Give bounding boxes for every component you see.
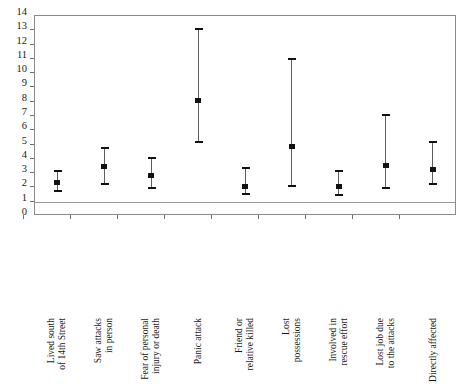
data-point-marker[interactable] xyxy=(430,167,436,172)
error-bar-cap-upper xyxy=(288,58,296,60)
x-axis-label-line: Lost xyxy=(281,318,292,386)
x-axis-label-line: Saw attacks xyxy=(93,318,104,386)
error-bar-cap-upper xyxy=(148,157,156,159)
x-axis-tick-mark xyxy=(305,215,306,219)
x-axis-label-line: Fear of personal xyxy=(140,318,151,386)
x-axis-category-label: Directly affected xyxy=(427,318,438,386)
error-bar-cap-lower xyxy=(195,141,203,143)
data-point-marker[interactable] xyxy=(242,184,248,189)
x-axis-category-label: Lost job dueto the attacks xyxy=(375,318,397,386)
x-axis-tick-mark xyxy=(70,215,71,219)
y-axis-tick-label: 6 xyxy=(22,121,27,131)
y-axis-tick-label: 12 xyxy=(17,36,28,46)
x-axis-tick-mark xyxy=(211,215,212,219)
error-bar-line xyxy=(198,29,199,142)
error-bar-line xyxy=(245,168,246,194)
x-axis-tick-mark xyxy=(164,215,165,219)
error-bar-cap-lower xyxy=(54,190,62,192)
x-axis-category-label: Panic attack xyxy=(193,318,204,386)
x-axis-label-line: to the attacks xyxy=(386,318,397,386)
error-bar-cap-upper xyxy=(382,114,390,116)
y-axis-tick-label: 8 xyxy=(22,93,27,103)
x-axis-labels: Lived southof 14th StreetSaw attacksin p… xyxy=(34,218,456,321)
y-axis: 01234567891011121314 xyxy=(0,15,34,215)
x-axis-category-label: Friend orrelative killed xyxy=(234,318,256,386)
x-axis-label-line: possessions xyxy=(292,318,303,386)
x-axis-category-label: Fear of personalinjury or death xyxy=(140,318,162,386)
error-bar-cap-lower xyxy=(101,183,109,185)
y-axis-tick-label: 14 xyxy=(17,7,28,17)
error-bar-cap-lower xyxy=(429,183,437,185)
error-bar-cap-lower xyxy=(148,187,156,189)
error-bar-cap-upper xyxy=(101,147,109,149)
x-axis-category-label: Involved inrescue effort xyxy=(328,318,350,386)
error-bar-cap-lower xyxy=(288,185,296,187)
data-point-marker[interactable] xyxy=(148,173,154,178)
x-axis-tick-mark xyxy=(258,215,259,219)
error-bar-cap-upper xyxy=(195,28,203,30)
error-bar-line xyxy=(432,142,433,183)
x-axis-label-line: injury or death xyxy=(151,318,162,386)
x-axis-label-line: Directly affected xyxy=(427,318,438,386)
x-axis-label-line: Panic attack xyxy=(193,318,204,386)
x-axis-category-label: Lived southof 14th Street xyxy=(46,318,68,386)
error-bar-cap-upper xyxy=(429,141,437,143)
x-axis-label-line: in person xyxy=(104,318,115,386)
x-axis-label-line: Lost job due xyxy=(375,318,386,386)
error-bar-line xyxy=(338,171,339,195)
data-point-marker[interactable] xyxy=(195,98,201,103)
y-axis-tick-label: 7 xyxy=(22,107,27,117)
y-axis-tick-label: 13 xyxy=(17,21,28,31)
data-point-marker[interactable] xyxy=(101,164,107,169)
error-bar-cap-upper xyxy=(242,167,250,169)
x-axis-category-label: Lostpossessions xyxy=(281,318,303,386)
y-axis-tick-label: 2 xyxy=(22,178,27,188)
data-point-marker[interactable] xyxy=(336,184,342,189)
error-bar-line xyxy=(385,115,386,188)
x-axis-label-line: rescue effort xyxy=(339,318,350,386)
x-axis-tick-mark xyxy=(352,215,353,219)
x-axis-label-line: of 14th Street xyxy=(57,318,68,386)
x-axis-tick-mark xyxy=(23,215,24,219)
x-axis-label-line: Involved in xyxy=(328,318,339,386)
x-axis-label-line: Lived south xyxy=(46,318,57,386)
error-bar-cap-upper xyxy=(54,170,62,172)
x-axis-tick-mark xyxy=(117,215,118,219)
error-bar-cap-lower xyxy=(382,187,390,189)
data-point-marker[interactable] xyxy=(54,180,60,185)
y-axis-tick-label: 4 xyxy=(22,150,27,160)
y-axis-tick-label: 5 xyxy=(22,136,27,146)
x-axis-category-label: Saw attacksin person xyxy=(93,318,115,386)
y-axis-tick-label: 10 xyxy=(17,64,28,74)
y-axis-tick-label: 1 xyxy=(22,193,27,203)
x-axis-label-line: relative killed xyxy=(245,318,256,386)
error-bar-cap-upper xyxy=(335,170,343,172)
x-axis-tick-mark xyxy=(399,215,400,219)
y-axis-tick-label: 9 xyxy=(22,78,27,88)
error-bar-cap-lower xyxy=(242,193,250,195)
data-point-marker[interactable] xyxy=(383,163,389,168)
error-bar-line xyxy=(291,59,292,186)
x-axis-label-line: Friend or xyxy=(234,318,245,386)
series-layer xyxy=(34,15,456,215)
error-bar-cap-lower xyxy=(335,194,343,196)
data-point-marker[interactable] xyxy=(289,144,295,149)
y-axis-tick-label: 11 xyxy=(17,50,27,60)
y-axis-tick-label: 3 xyxy=(22,164,27,174)
